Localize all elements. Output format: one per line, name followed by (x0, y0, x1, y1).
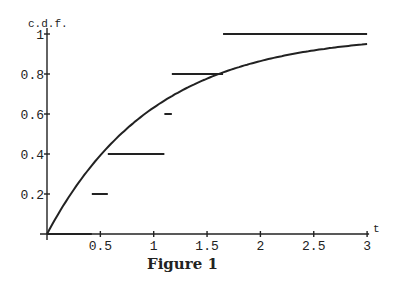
x-tick-label: 1.5 (195, 239, 218, 254)
x-axis-label: t (373, 223, 380, 235)
x-tick-label: 1 (150, 239, 158, 254)
y-tick-label: 0.4 (21, 148, 45, 163)
x-tick-label: 2 (256, 239, 264, 254)
y-tick-label: 0.2 (21, 188, 44, 203)
x-tick-label: 0.5 (89, 239, 112, 254)
axes (40, 28, 369, 240)
y-tick-label: 1 (36, 28, 44, 43)
tick-labels: 0.511.522.530.20.40.60.81tc.d.f. (21, 18, 380, 254)
cdf-curve (47, 44, 367, 234)
step-function (47, 34, 367, 234)
figure-caption: Figure 1 (147, 255, 218, 273)
y-axis-label: c.d.f. (28, 18, 68, 30)
x-tick-label: 2.5 (302, 239, 325, 254)
cdf-chart: 0.511.522.530.20.40.60.81tc.d.f. (0, 0, 397, 291)
x-tick-label: 3 (363, 239, 371, 254)
y-tick-label: 0.8 (21, 68, 44, 83)
y-tick-label: 0.6 (21, 108, 44, 123)
